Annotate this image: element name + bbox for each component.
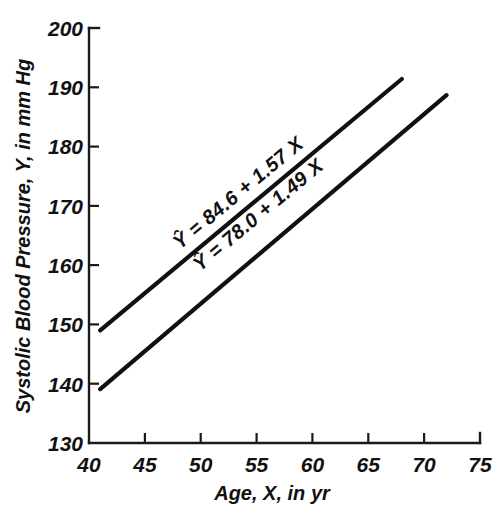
y-axis-ticks	[89, 87, 99, 383]
y-tick-label-170: 170	[48, 195, 83, 218]
y-tick-label-190: 190	[48, 76, 83, 99]
x-tick-label-65: 65	[357, 453, 381, 476]
y-axis-title: Systolic Blood Pressure, Y, in mm Hg	[12, 59, 34, 414]
chart-figure: 200 190 180 170 160 150 140 130 40 45 50…	[0, 0, 501, 515]
regression-lines	[100, 79, 446, 389]
x-axis-title: Age, X, in yr	[213, 482, 331, 504]
y-tick-label-150: 150	[48, 313, 83, 336]
regression-line-upper	[100, 79, 402, 330]
regression-line-lower	[100, 95, 446, 389]
x-axis-ticks	[145, 433, 424, 443]
x-tick-label-70: 70	[412, 453, 436, 476]
y-tick-label-130: 130	[48, 432, 83, 455]
x-tick-label-50: 50	[189, 453, 213, 476]
y-tick-label-200: 200	[47, 17, 83, 40]
y-axis-tick-labels: 200 190 180 170 160 150 140 130	[47, 17, 83, 455]
x-tick-label-45: 45	[132, 453, 157, 476]
y-tick-label-140: 140	[48, 373, 83, 396]
y-tick-label-180: 180	[48, 135, 83, 158]
chart-canvas: 200 190 180 170 160 150 140 130 40 45 50…	[0, 0, 501, 515]
x-tick-label-75: 75	[468, 453, 492, 476]
x-axis-tick-labels: 40 45 50 55 60 65 70 75	[76, 453, 492, 476]
x-tick-label-40: 40	[76, 453, 101, 476]
x-tick-label-55: 55	[245, 453, 269, 476]
axis-frame	[89, 28, 480, 443]
x-tick-label-60: 60	[301, 453, 325, 476]
y-tick-label-160: 160	[48, 254, 83, 277]
